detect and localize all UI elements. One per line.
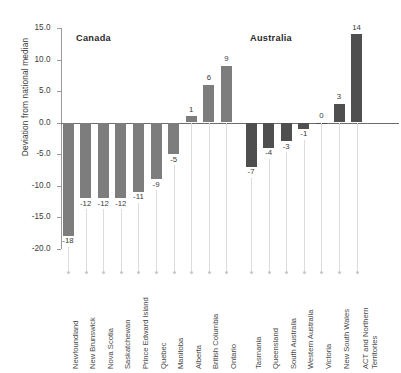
x-axis-category-label: Nova Scotia [107, 328, 116, 369]
bar-value-label: 1 [179, 106, 204, 114]
category-leader-dot [356, 271, 359, 274]
x-axis-category-label: Alberta [195, 345, 204, 369]
y-axis-tick-mark [57, 186, 61, 187]
y-axis-tick-label: 0.0 [17, 119, 51, 127]
category-leader-line [209, 123, 210, 272]
y-axis-tick-mark [57, 217, 61, 218]
y-axis-tick-label: -10.0 [17, 182, 51, 190]
category-leader-dot [190, 271, 193, 274]
category-leader-dot [303, 271, 306, 274]
category-leader-line [286, 152, 287, 271]
bar [63, 123, 74, 236]
category-leader-line [339, 123, 340, 272]
category-leader-line [304, 140, 305, 271]
bar [281, 123, 292, 142]
x-axis-category-label: New South Wales [343, 309, 352, 369]
y-axis-tick-label: -20.0 [17, 245, 51, 253]
bar [80, 123, 91, 199]
y-axis-tick-mark [57, 28, 61, 29]
bar-value-label: -9 [144, 181, 169, 189]
y-axis-tick-label: -5.0 [17, 150, 51, 158]
y-axis-tick-mark [57, 91, 61, 92]
category-leader-dot [173, 271, 176, 274]
category-leader-line [121, 209, 122, 271]
category-leader-line [86, 209, 87, 271]
x-axis-category-label: British Columbia [212, 314, 221, 369]
category-leader-line [321, 123, 322, 272]
category-leader-line [103, 209, 104, 271]
category-leader-line [68, 247, 69, 271]
bar [246, 123, 257, 167]
x-axis-category-label: Manitoba [177, 338, 186, 369]
bar [115, 123, 126, 199]
category-leader-line [226, 123, 227, 272]
bar-value-label: -11 [126, 193, 151, 201]
x-axis-category-label: Queensland [272, 328, 281, 369]
bar-value-label: -18 [56, 237, 81, 245]
category-leader-dot [225, 271, 228, 274]
bar-value-label: 0 [309, 112, 334, 120]
bar [203, 85, 214, 123]
category-leader-line [174, 165, 175, 271]
y-axis-tick-mark [57, 60, 61, 61]
bar [133, 123, 144, 192]
bar [168, 123, 179, 155]
bar-chart: Deviation from national median 15.010.05… [0, 0, 401, 373]
panel-title-canada: Canada [76, 33, 111, 43]
category-leader-dot [102, 271, 105, 274]
bar-value-label: -5 [161, 156, 186, 164]
x-axis-category-label: Prince Edward Island [142, 297, 151, 369]
category-leader-dot [268, 271, 271, 274]
bar-value-label: -1 [291, 130, 316, 138]
y-axis-tick-label: 5.0 [17, 87, 51, 95]
x-axis-category-label: South Australia [290, 318, 299, 369]
category-leader-dot [155, 271, 158, 274]
panel-title-australia: Australia [250, 33, 292, 43]
category-leader-line [191, 123, 192, 272]
category-leader-line [138, 203, 139, 271]
x-axis-category-label: Saskatchewan [124, 320, 133, 369]
y-axis-tick-label: -15.0 [17, 213, 51, 221]
category-leader-line [251, 178, 252, 271]
x-axis-category-label: Quebec [160, 342, 169, 369]
category-leader-dot [285, 271, 288, 274]
category-leader-line [156, 190, 157, 271]
category-leader-dot [67, 271, 70, 274]
bar [298, 123, 309, 129]
x-axis-category-label: Newfoundland [72, 320, 81, 369]
x-axis-category-label: Victoria [325, 344, 334, 369]
bar [263, 123, 274, 148]
category-leader-dot [338, 271, 341, 274]
category-leader-dot [320, 271, 323, 274]
category-leader-dot [120, 271, 123, 274]
bar-value-label: 6 [196, 74, 221, 82]
bar-value-label: -3 [274, 143, 299, 151]
bar-value-label: -7 [239, 168, 264, 176]
bar [221, 66, 232, 123]
category-leader-dot [85, 271, 88, 274]
bar [151, 123, 162, 180]
y-axis-line [61, 28, 62, 249]
x-axis-category-label: Ontario [230, 344, 239, 369]
zero-reference-line [61, 123, 400, 124]
y-axis-tick-label: 15.0 [17, 24, 51, 32]
bar [98, 123, 109, 199]
bar [351, 34, 362, 122]
category-leader-dot [137, 271, 140, 274]
x-axis-category-label: Tasmania [255, 337, 264, 370]
bar [334, 104, 345, 123]
x-axis-category-label: New Brunswick [89, 317, 98, 369]
bar-value-label: 14 [344, 24, 369, 32]
y-axis-tick-label: 10.0 [17, 56, 51, 64]
x-axis-category-label: ACT and Northern Territories [362, 308, 380, 369]
y-axis-tick-mark [57, 154, 61, 155]
category-leader-line [357, 123, 358, 272]
bar-value-label: 9 [214, 55, 239, 63]
x-axis-category-label: Western Australia [307, 310, 316, 369]
category-leader-dot [250, 271, 253, 274]
category-leader-dot [208, 271, 211, 274]
bar-value-label: 3 [327, 93, 352, 101]
category-leader-line [269, 159, 270, 271]
y-axis-tick-mark [57, 249, 61, 250]
